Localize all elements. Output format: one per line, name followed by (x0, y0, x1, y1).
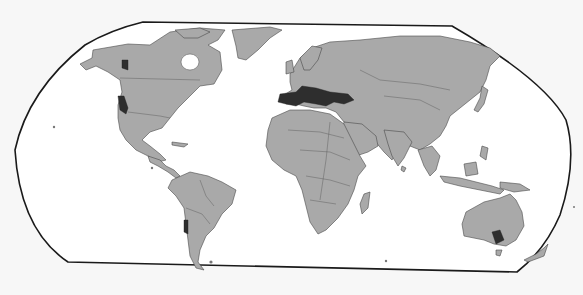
hudson-bay (181, 54, 199, 70)
region-pacific-northwest (122, 60, 128, 70)
world-map (0, 0, 583, 295)
region-central-chile (184, 220, 188, 234)
land-borneo (464, 162, 478, 176)
